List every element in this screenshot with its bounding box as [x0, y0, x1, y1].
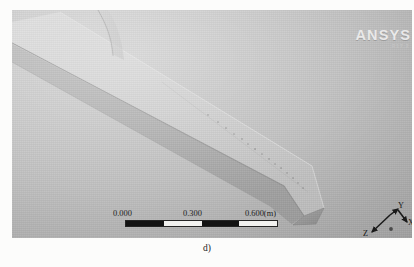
scale-bar-segment: [239, 221, 277, 226]
scale-tick-0600: 0.600(m): [245, 208, 276, 219]
scale-bar-segment: [202, 221, 240, 226]
figure-container: ANSYS R17.2 0.000 0.300 0.600(m) 0.150 0…: [0, 0, 414, 267]
axis-x-arrow: [398, 210, 407, 222]
scale-bar-segment: [126, 221, 164, 226]
scale-tick-0300: 0.300: [183, 208, 202, 219]
ansys-3d-viewport[interactable]: ANSYS R17.2 0.000 0.300 0.600(m) 0.150 0…: [12, 10, 412, 238]
axis-y-arrow: [390, 209, 398, 215]
scale-bar-top-labels: 0.000 0.300 0.600(m): [113, 208, 289, 219]
axis-z-arrow: [372, 215, 390, 232]
axis-label-z: Z: [363, 229, 368, 238]
scale-bar-track: [125, 220, 278, 227]
scale-bar: 0.000 0.300 0.600(m) 0.150 0.450: [113, 208, 289, 238]
axis-label-y: Y: [398, 201, 404, 210]
blade-geometry: [12, 10, 412, 238]
axis-triad[interactable]: Y X Z: [360, 203, 412, 238]
axis-origin-dot: [389, 227, 393, 231]
figure-caption: d): [0, 243, 414, 253]
axis-label-x: X: [408, 218, 412, 227]
scale-bar-segment: [164, 221, 202, 226]
scale-tick-0000: 0.000: [113, 208, 132, 219]
